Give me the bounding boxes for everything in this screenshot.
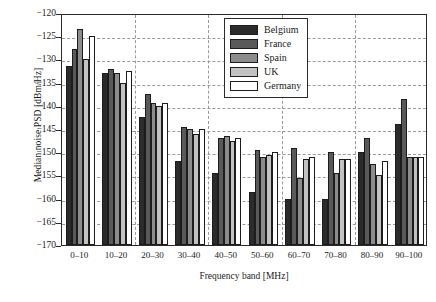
y-axis-tick-label: −120 xyxy=(10,9,56,19)
y-axis-tick-label: −130 xyxy=(10,56,56,66)
x-axis-tick-label: 10–20 xyxy=(105,250,128,260)
y-axis-tick-label: −170 xyxy=(10,241,56,251)
legend-item: Belgium xyxy=(230,23,301,37)
bar-group xyxy=(102,15,131,245)
x-axis-tick-label: 80–90 xyxy=(361,250,384,260)
y-axis-tick-label: −150 xyxy=(10,148,56,158)
legend-swatch-germany xyxy=(230,81,258,91)
legend-label-germany: Germany xyxy=(264,81,301,91)
x-axis-tick-label: 60–70 xyxy=(288,250,311,260)
bar-germany-30-40 xyxy=(199,129,205,245)
x-axis-title: Frequency band [MHz] xyxy=(61,271,427,281)
bar-group xyxy=(322,15,351,245)
legend-swatch-belgium xyxy=(230,25,258,35)
legend-item: Spain xyxy=(230,51,301,65)
bar-germany-40-50 xyxy=(235,138,241,245)
legend-swatch-france xyxy=(230,39,258,49)
bar-group xyxy=(358,15,387,245)
bar-germany-90-100 xyxy=(418,157,424,245)
bar-group xyxy=(66,15,95,245)
legend-label-spain: Spain xyxy=(264,53,287,63)
bar-germany-50-60 xyxy=(272,152,278,245)
legend-item: Germany xyxy=(230,79,301,93)
x-axis-tick-label: 90–100 xyxy=(395,250,422,260)
bar-group xyxy=(139,15,168,245)
legend: Belgium France Spain UK Germany xyxy=(224,18,308,98)
legend-item: France xyxy=(230,37,301,51)
y-axis-tick-label: −145 xyxy=(10,125,56,135)
x-axis-tick-label: 30–40 xyxy=(178,250,201,260)
bar-group xyxy=(395,15,424,245)
legend-label-uk: UK xyxy=(264,67,278,77)
legend-label-belgium: Belgium xyxy=(264,25,298,35)
bar-germany-80-90 xyxy=(382,161,388,245)
y-axis-tick-label: −125 xyxy=(10,32,56,42)
legend-swatch-spain xyxy=(230,53,258,63)
legend-item: UK xyxy=(230,65,301,79)
x-axis-tick-label: 50–60 xyxy=(251,250,274,260)
x-axis-tick-label: 70–80 xyxy=(324,250,347,260)
legend-label-france: France xyxy=(264,39,291,49)
noise-psd-bar-chart: Median noise PSD [dBm/Hz] −120−125−130−1… xyxy=(0,0,436,302)
bar-germany-10-20 xyxy=(126,71,132,245)
bar-germany-70-80 xyxy=(345,159,351,245)
bar-germany-20-30 xyxy=(162,103,168,245)
y-axis-tick-mark xyxy=(56,246,61,247)
y-axis-tick-label: −140 xyxy=(10,102,56,112)
bar-germany-0-10 xyxy=(89,36,95,245)
x-axis-tick-label: 0–10 xyxy=(70,250,88,260)
bar-group xyxy=(175,15,204,245)
y-axis-tick-label: −160 xyxy=(10,195,56,205)
bar-germany-60-70 xyxy=(309,157,315,245)
y-axis-tick-label: −155 xyxy=(10,172,56,182)
legend-swatch-uk xyxy=(230,67,258,77)
x-axis-tick-label: 20–30 xyxy=(141,250,164,260)
y-axis-tick-label: −135 xyxy=(10,79,56,89)
x-axis-tick-label: 40–50 xyxy=(214,250,237,260)
y-axis-tick-label: −165 xyxy=(10,218,56,228)
